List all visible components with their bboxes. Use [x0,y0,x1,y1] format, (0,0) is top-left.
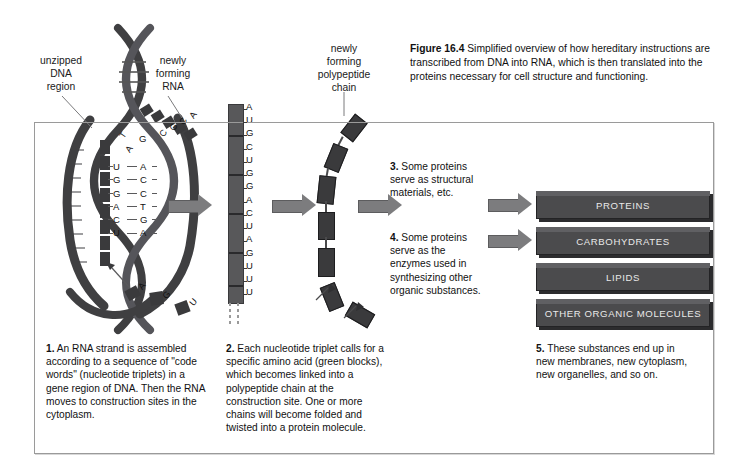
rna-base-letter: U [246,153,253,166]
rna-base-letter: A [246,193,252,206]
rna-base-tick [243,135,247,136]
dna-base-letter-t: T [117,130,128,140]
rna-base-tick [243,202,247,203]
rna-base-letter: C [246,206,253,219]
free-nucleotides [124,285,190,315]
step-2-text: 2. Each nucleotide triplet calls for a s… [226,342,390,434]
rna-base-tick [243,281,247,282]
arrow-rna-to-polypeptide [272,194,316,216]
rna-base-letter: A [246,100,252,113]
rna-base-letter-c2: C [177,115,189,126]
base-pair-bond [152,233,157,234]
rna-base-tick [243,294,247,295]
free-nucleotide-label-g: G [160,289,172,301]
rna-base-letter: G [246,166,253,179]
base-pair-bond [152,179,157,180]
step-1-text: 1. An RNA strand is assembled according … [46,342,206,421]
free-amino-acid-1 [320,282,345,312]
free-amino-acid-2 [345,302,376,329]
rna-base-tick [243,175,247,176]
product-bar-lipids: LIPIDS [536,263,710,291]
base-pair-bond [127,219,137,220]
rna-base-letter: G [246,179,253,192]
rna-base-tick [243,162,247,163]
rna-base-tick [243,149,247,150]
step-3-text: 3. Some proteins serve as structural mat… [390,160,482,200]
rna-base-tick [243,109,247,110]
base-pair-bond [108,219,113,220]
rna-base-letter: C [246,140,253,153]
label-newly-forming-rna: newly forming RNA [140,54,206,93]
figure-caption: Figure 16.4 Simplified overview of how h… [410,42,720,85]
dna-rna-base-letters: U G G A C U [113,160,120,240]
rna-base-tick [243,268,247,269]
base-pair-bond [127,193,137,194]
product-bar-proteins: PROTEINS [536,191,710,219]
rna-base-tick [243,122,247,123]
nascent-rna-blocks [100,140,110,266]
arrow-dna-to-rna [168,194,212,216]
figure-number: Figure 16.4 [410,43,464,54]
base-pair-bond [127,206,137,207]
free-nucleotide-label-u: U [187,296,199,307]
base-pair-bond [108,179,113,180]
base-pair-bond [108,206,113,207]
rna-base-letter: G [246,126,253,139]
rna-strand-dashed-tail [229,303,241,325]
rna-base-letter-a: A [187,110,199,121]
rna-base-letter: A [246,232,252,245]
arrow-to-proteins-bar [488,193,532,215]
rna-base-tick [243,228,247,229]
dna-base-letter-a: A [123,144,135,155]
rna-transcript-strand [228,104,244,304]
label-newly-forming-polypeptide-chain: newly forming polypeptide chain [300,42,388,94]
base-pair-bond [127,233,137,234]
base-pair-bond [127,179,137,180]
rna-base-letter: U [246,259,253,272]
free-nucleotide-label-a: A [136,280,148,291]
base-pair-bond [152,219,157,220]
base-pair-bond [108,193,113,194]
rna-base-letter: U [246,272,253,285]
rna-base-tick [243,188,247,189]
step-5-text: 5. These substances end up in new membra… [536,342,692,382]
figure-root: Figure 16.4 Simplified overview of how h… [0,0,744,472]
base-pair-bond [152,206,157,207]
dna-upper-base-letters: G [139,132,146,145]
base-pair-bond [108,233,113,234]
rna-base-letter: U [246,113,253,126]
product-bar-carbohydrates: CARBOHYDRATES [536,227,710,255]
rna-base-letter: U [246,219,253,232]
base-pair-bond [127,166,137,167]
rna-base-tick [243,215,247,216]
base-pair-bond [152,166,157,167]
base-pair-bond [152,193,157,194]
product-bar-other-organic-molecules: OTHER ORGANIC MOLECULES [536,299,710,327]
base-pair-bond [108,166,113,167]
rna-base-tick [243,255,247,256]
rna-base-tick [243,241,247,242]
emerging-rna-strand [140,103,198,140]
rna-base-letter-g: G [167,121,179,132]
rna-base-letter: U [246,285,253,298]
step-4-text: 4. Some proteins serve as the enzymes us… [390,231,484,297]
dna-template-base-letters: A C C T G A [140,160,147,240]
rna-base-letter-c1: C [157,127,169,138]
rna-base-letter: G [246,246,253,259]
arrow-to-carbohydrates-bar [488,229,532,251]
label-unzipped-dna-region: unzipped DNA region [20,54,102,93]
